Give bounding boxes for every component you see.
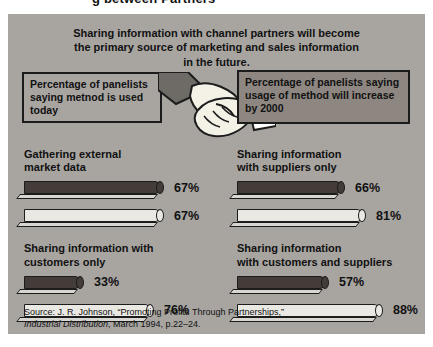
bar-row-today: 33% [24, 274, 237, 291]
group-label: Sharing information with customers and s… [237, 242, 418, 268]
bar-value: 67% [174, 209, 199, 223]
header-line1: Sharing information with channel partner… [73, 27, 360, 39]
figure-panel: Sharing information with channel partner… [8, 14, 425, 334]
group-label: Sharing information with suppliers only [237, 148, 418, 174]
figure-scan: g between Partners Sharing information w… [0, 0, 433, 347]
group-label: Gathering external market data [24, 148, 237, 174]
group-label-line1: Sharing information with [24, 242, 154, 254]
group-label-line1: Sharing information [237, 148, 342, 160]
legend-box-today: Percentage of panelists saying metnod is… [22, 72, 162, 123]
bar-value: 33% [94, 275, 119, 289]
bar-value: 81% [376, 209, 401, 223]
group-label-line1: Gathering external [24, 148, 121, 160]
bar-value: 57% [339, 275, 364, 289]
bar-row-today: 57% [237, 274, 418, 291]
bar-row-today: 67% [24, 179, 237, 196]
source-line1: Source: J. R. Johnson, “Promoting Profit… [24, 307, 284, 317]
bar-chart-grid: Gathering external market data 67% 67% [24, 148, 418, 330]
bar-2000 [24, 209, 160, 222]
source-citation: Source: J. R. Johnson, “Promoting Profit… [24, 306, 284, 330]
group-label-line2: customers only [24, 256, 105, 268]
bar-2000 [237, 209, 362, 222]
figure-header: Sharing information with channel partner… [38, 26, 395, 69]
bar-today [237, 276, 325, 289]
bar-today [24, 276, 80, 289]
bar-row-2000: 81% [237, 207, 418, 224]
bar-value: 88% [393, 303, 418, 317]
legend-box-increase-2000: Percentage of panelists saying usage of … [237, 70, 410, 124]
cropped-page-heading-text: g between Partners [92, 0, 352, 6]
group-label-line2: with suppliers only [237, 161, 337, 173]
bar-today [237, 181, 341, 194]
group-label-line2: with customers and suppliers [237, 256, 392, 268]
header-line2: the primary source of marketing and sale… [74, 41, 359, 53]
chart-group-suppliers-only: Sharing information with suppliers only … [237, 148, 418, 235]
source-journal: Industrial Distribution [24, 319, 108, 329]
chart-group-external-market-data: Gathering external market data 67% 67% [24, 148, 237, 235]
group-label: Sharing information with customers only [24, 242, 237, 268]
bar-row-today: 66% [237, 179, 418, 196]
bar-value: 67% [174, 181, 199, 195]
bar-today [24, 181, 160, 194]
bar-row-2000: 67% [24, 207, 237, 224]
bar-value: 66% [355, 181, 380, 195]
group-label-line2: market data [24, 161, 86, 173]
group-label-line1: Sharing information [237, 242, 342, 254]
source-line2-rest: , March 1994, p.22–24. [108, 319, 201, 329]
cropped-page-heading: g between Partners [92, 0, 352, 8]
header-line3: in the future. [183, 56, 250, 68]
